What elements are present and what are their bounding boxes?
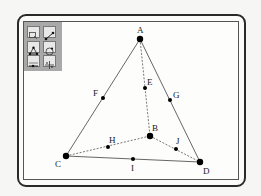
label-F: F [93,88,98,98]
point-D[interactable] [197,159,203,165]
tetrahedron-diagram: A B C D E F G H I J [0,0,261,196]
point-C[interactable] [63,153,69,159]
point-J[interactable] [174,147,178,151]
label-A: A [137,25,144,35]
label-J: J [176,136,180,146]
label-E: E [147,77,153,87]
point-A[interactable] [137,36,143,42]
label-D: D [203,166,210,176]
label-I: I [131,163,134,173]
label-H: H [109,135,116,145]
point-F[interactable] [101,96,105,100]
point-H[interactable] [106,145,110,149]
label-B: B [152,123,158,133]
label-G: G [173,90,180,100]
point-G[interactable] [168,98,172,102]
point-B[interactable] [147,133,153,139]
point-I[interactable] [131,157,135,161]
label-C: C [55,159,61,169]
